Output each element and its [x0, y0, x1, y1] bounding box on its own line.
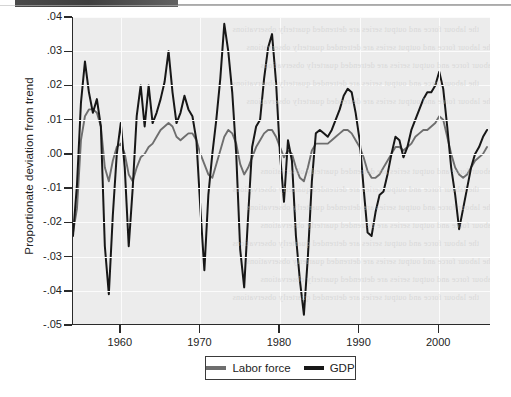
page-showthrough-text: the labour force and output series are d…: [95, 203, 490, 212]
gridline-horizontal: [73, 17, 490, 18]
legend-label-labor-force: Labor force: [232, 362, 290, 374]
page-showthrough-text: the labour force and output series are d…: [81, 293, 479, 302]
x-axis-tick-label: 2000: [408, 336, 468, 348]
page-showthrough-text: the labour force and output series are d…: [109, 275, 490, 284]
y-axis-tick: [64, 290, 72, 292]
y-axis-tick-label: -.04: [8, 284, 62, 296]
gridline-horizontal: [73, 154, 490, 155]
gridline-horizontal: [73, 120, 490, 121]
plot-area: the labour force and output series are d…: [72, 17, 490, 325]
page-showthrough-text: the labour force and output series are d…: [95, 257, 490, 266]
page-showthrough-text: the labour force and output series are d…: [95, 97, 490, 106]
y-axis-tick-label: -.01: [8, 181, 62, 193]
page-showthrough-text: the labour force and output series are d…: [81, 79, 479, 88]
x-axis-tick: [119, 325, 121, 333]
legend-label-gdp: GDP: [330, 362, 355, 374]
gridline-horizontal: [73, 291, 490, 292]
legend-item-labor-force: Labor force: [206, 362, 290, 374]
chart-legend: Labor force GDP: [205, 356, 356, 380]
x-axis-tick: [199, 325, 201, 333]
y-axis-tick-label: .02: [8, 78, 62, 90]
y-axis-tick: [64, 153, 72, 155]
y-axis-tick: [64, 256, 72, 258]
legend-swatch-gdp: [304, 366, 324, 369]
y-axis-tick-label: .03: [8, 44, 62, 56]
y-axis-tick-label: -.02: [8, 215, 62, 227]
y-axis-tick-label: .01: [8, 113, 62, 125]
y-axis-tick-label: .04: [8, 10, 62, 22]
y-axis-tick: [64, 119, 72, 121]
y-axis-tick-label: -.05: [8, 318, 62, 330]
x-axis-tick-label: 1970: [169, 336, 229, 348]
x-axis-tick: [358, 325, 360, 333]
y-axis-tick-label: .00: [8, 147, 62, 159]
plot-inner: the labour force and output series are d…: [73, 17, 490, 324]
y-axis-tick: [64, 222, 72, 224]
page-showthrough-text: the labour force and output series are d…: [109, 61, 490, 70]
y-axis-tick: [64, 16, 72, 18]
page-showthrough-text: the labour force and output series are d…: [109, 167, 490, 176]
page-showthrough-text: the labour force and output series are d…: [109, 221, 490, 230]
y-axis-tick-labels: .04.03.02.01.00-.01-.02-.03-.04-.05: [0, 0, 62, 397]
x-axis-tick-label: 1980: [249, 336, 309, 348]
page-showthrough-text: the labour force and output series are d…: [81, 185, 479, 194]
page-showthrough-text: the labour force and output series are d…: [81, 239, 479, 248]
page-showthrough-text: the labour force and output series are d…: [95, 43, 490, 52]
y-axis-tick: [64, 324, 72, 326]
chart-figure: Proportionate deviation from trend .04.0…: [0, 0, 511, 397]
legend-swatch-labor-force: [206, 366, 226, 369]
y-axis-tick: [64, 85, 72, 87]
x-axis-tick: [438, 325, 440, 333]
x-axis-tick: [278, 325, 280, 333]
y-axis-tick-label: -.03: [8, 250, 62, 262]
legend-item-gdp: GDP: [304, 362, 355, 374]
y-axis-tick: [64, 187, 72, 189]
x-axis-tick-label: 1960: [90, 336, 150, 348]
x-axis-tick-label: 1990: [329, 336, 389, 348]
y-axis-tick: [64, 51, 72, 53]
page-showthrough-text: the labour force and output series are d…: [81, 25, 479, 34]
